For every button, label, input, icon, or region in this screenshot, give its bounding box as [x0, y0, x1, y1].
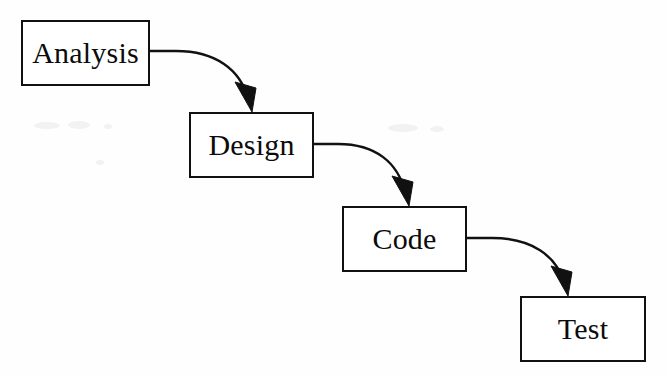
stage-box-analysis[interactable]: Analysis [21, 20, 150, 86]
stage-box-code[interactable]: Code [342, 206, 467, 272]
connector-analysis-to-design-arrowhead [235, 82, 256, 112]
connector-code-to-test-line [467, 238, 564, 282]
connector-design-to-code [314, 144, 413, 206]
scan-artifact [34, 122, 60, 129]
scan-artifact [388, 124, 418, 132]
connector-code-to-test-arrowhead [551, 266, 572, 296]
connector-design-to-code-arrowhead [392, 176, 413, 206]
stage-box-design[interactable]: Design [189, 112, 314, 178]
waterfall-diagram-canvas: Analysis Design Code Test [0, 0, 667, 377]
scan-artifact [96, 160, 104, 165]
connector-analysis-to-design-line [150, 51, 248, 98]
stage-label-design: Design [208, 130, 294, 160]
connector-code-to-test [467, 238, 572, 296]
connector-analysis-to-design [150, 51, 256, 112]
connector-design-to-code-line [314, 144, 405, 192]
stage-box-test[interactable]: Test [520, 296, 646, 362]
stage-label-test: Test [558, 314, 608, 344]
scan-artifact [104, 124, 112, 129]
scan-artifact [430, 126, 444, 132]
scan-artifact [68, 121, 90, 129]
stage-label-analysis: Analysis [32, 38, 139, 68]
stage-label-code: Code [372, 224, 436, 254]
